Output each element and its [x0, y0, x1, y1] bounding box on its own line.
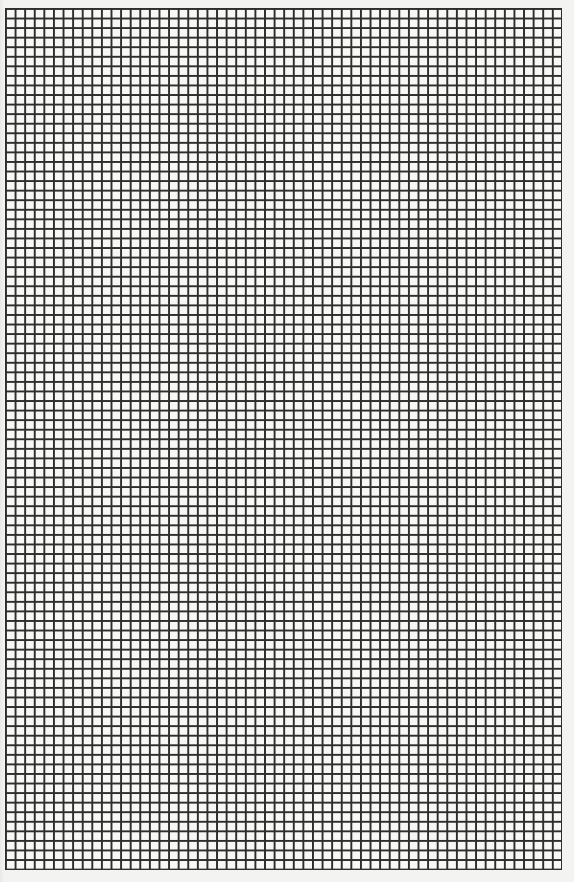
scan-edge	[0, 0, 4, 882]
graph-paper-grid	[5, 8, 562, 870]
